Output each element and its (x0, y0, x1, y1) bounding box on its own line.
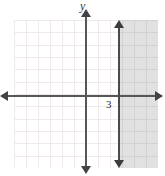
x-axis-left-arrow-icon (0, 91, 8, 101)
y-axis-down-arrow-icon (81, 166, 91, 174)
y-axis (85, 14, 87, 172)
x-tick-label-3: 3 (106, 98, 112, 110)
boundary-line-down-arrow-icon (114, 160, 124, 168)
x-axis (3, 95, 162, 97)
x-axis-right-arrow-icon (155, 91, 163, 101)
y-axis-label: y (80, 0, 85, 12)
shaded-solution-region (118, 20, 158, 168)
coordinate-plane-graph: y 3 (0, 0, 165, 176)
boundary-line-up-arrow-icon (114, 20, 124, 28)
boundary-line-x-equals-3 (118, 26, 120, 164)
